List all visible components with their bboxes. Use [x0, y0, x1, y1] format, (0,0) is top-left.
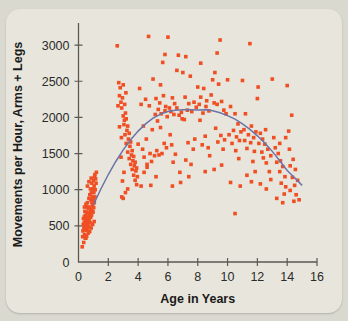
x-axis-title: Age in Years [160, 292, 235, 306]
data-point [276, 152, 280, 156]
data-point [186, 141, 190, 145]
data-point [278, 142, 282, 146]
data-point [119, 100, 123, 104]
data-point [171, 96, 175, 100]
data-point [278, 170, 282, 174]
data-point [226, 78, 230, 82]
data-point [219, 134, 223, 138]
data-point [268, 170, 272, 174]
data-point [220, 163, 224, 167]
data-point [192, 100, 196, 104]
x-tick-label: 10 [221, 270, 235, 284]
data-point [168, 106, 172, 110]
data-point [259, 131, 263, 135]
data-point [124, 191, 128, 195]
data-point [122, 123, 126, 127]
data-point [252, 136, 256, 140]
data-point [250, 124, 254, 128]
data-point [89, 176, 93, 180]
data-point [242, 128, 246, 132]
y-tick-label: 3000 [42, 39, 70, 53]
data-point [285, 84, 289, 88]
data-point [91, 210, 95, 214]
data-point [121, 96, 125, 100]
data-point [204, 105, 208, 109]
data-point [205, 99, 209, 103]
data-point [284, 136, 288, 140]
data-point [237, 157, 241, 161]
data-point [216, 140, 220, 144]
data-point [130, 168, 134, 172]
y-tick-label: 2000 [42, 111, 70, 125]
data-point [209, 93, 213, 97]
data-point [218, 38, 222, 42]
data-point [124, 111, 128, 115]
data-point [92, 220, 96, 224]
data-point [217, 82, 221, 86]
data-point [288, 189, 292, 193]
y-tick-label: 1000 [42, 183, 70, 197]
data-point [288, 164, 292, 168]
y-tick-label: 1500 [42, 147, 70, 161]
data-point [284, 185, 288, 189]
data-point [154, 175, 158, 179]
data-point [187, 175, 191, 179]
data-point [291, 158, 295, 162]
data-point [264, 128, 268, 132]
data-point [136, 175, 140, 179]
data-point [135, 166, 139, 170]
x-tick-label: 6 [164, 270, 171, 284]
data-point [132, 173, 136, 177]
data-point [241, 79, 245, 83]
data-point [256, 85, 260, 89]
data-point [191, 147, 195, 151]
data-point [189, 163, 193, 167]
data-point [247, 133, 251, 137]
data-point [138, 87, 142, 91]
data-point [159, 83, 163, 87]
y-tick-label: 0 [63, 256, 70, 270]
data-point [145, 137, 149, 141]
data-point [117, 81, 121, 85]
data-point [121, 83, 125, 87]
data-point [223, 138, 227, 142]
data-point [229, 181, 233, 185]
data-point [115, 44, 119, 48]
data-point [165, 146, 169, 150]
data-point [82, 241, 86, 245]
data-point [95, 171, 99, 175]
data-point [269, 154, 273, 158]
data-point [121, 179, 125, 183]
data-point [161, 61, 165, 65]
data-point [221, 147, 225, 151]
data-point [297, 198, 301, 202]
data-point [173, 102, 177, 106]
y-tick-label: 500 [49, 219, 70, 233]
data-point [162, 142, 166, 146]
data-point [123, 103, 127, 107]
data-point [178, 171, 182, 175]
data-point [202, 87, 206, 91]
data-point [290, 113, 294, 117]
data-point [196, 85, 200, 89]
scatter-plot: 0500100015002000250030000246810121416Age… [6, 9, 342, 313]
y-axis-title: Movements per Hour, Arms + Legs [11, 42, 25, 248]
data-point [139, 103, 143, 107]
data-point [147, 35, 151, 39]
data-point [244, 112, 248, 116]
data-point [129, 163, 133, 167]
data-point [148, 152, 152, 156]
data-point [227, 133, 231, 137]
data-point [184, 158, 188, 162]
data-point [238, 139, 242, 143]
data-point [265, 161, 269, 165]
data-point [265, 187, 269, 191]
chart-card: 0500100015002000250030000246810121416Age… [6, 9, 342, 313]
data-point [249, 141, 253, 145]
data-point [151, 77, 155, 81]
data-point [162, 94, 166, 98]
data-point [93, 188, 97, 192]
data-point [171, 184, 175, 188]
data-point [166, 35, 170, 39]
data-point [120, 136, 124, 140]
